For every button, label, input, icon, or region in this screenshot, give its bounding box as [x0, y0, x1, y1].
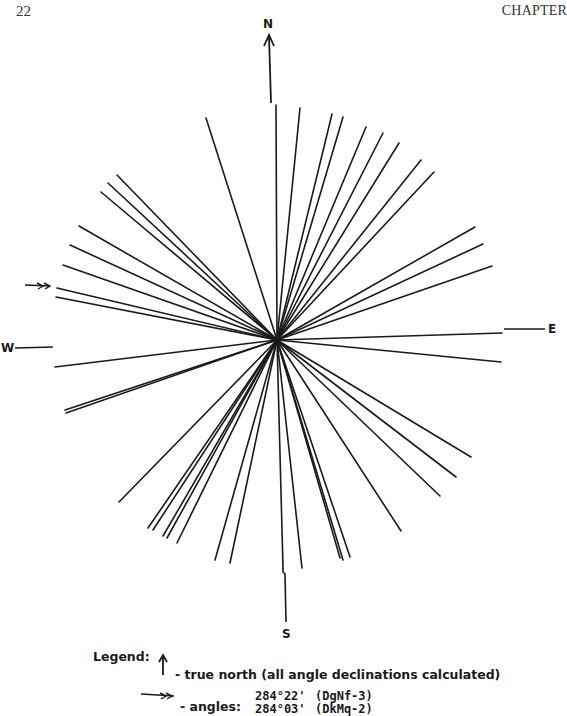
legend-title: Legend: — [93, 649, 150, 664]
legend-angle-pointer-icon — [141, 693, 174, 699]
angle-ray — [277, 340, 501, 362]
angle-ray — [177, 340, 277, 543]
west-label: W — [1, 341, 14, 355]
legend-north-arrow-icon — [159, 655, 167, 675]
legend-angle-2-site: (DkMq-2) — [315, 702, 373, 716]
angle-ray — [277, 340, 440, 496]
angle-ray — [57, 288, 277, 340]
angle-ray — [101, 192, 277, 340]
angle-ray — [79, 226, 277, 340]
south-marker — [283, 568, 286, 622]
angle-ray — [119, 340, 277, 502]
angle-ray — [63, 265, 277, 340]
angle-ray — [117, 175, 277, 340]
legend-angle-1-value: 284°22' — [255, 689, 306, 703]
orientation-rose-diagram — [0, 0, 567, 716]
angle-ray — [277, 340, 456, 477]
west-marker — [15, 347, 53, 348]
angle-ray — [277, 333, 502, 340]
east-label: E — [548, 322, 556, 336]
south-label: S — [282, 627, 291, 641]
angle-ray — [70, 245, 277, 340]
angle-ray — [277, 172, 434, 340]
angle-pointer-icon — [25, 283, 50, 289]
angle-ray — [277, 117, 343, 340]
legend-angle-2-value: 284°03' — [255, 702, 306, 716]
angle-ray — [277, 340, 350, 557]
angle-ray — [277, 143, 399, 340]
legend-angle-1-site: (DgNf-3) — [315, 689, 373, 703]
angle-ray — [56, 297, 277, 340]
angle-ray — [277, 244, 483, 340]
angle-ray — [276, 105, 277, 340]
angle-ray — [277, 108, 300, 340]
angle-rays — [55, 105, 502, 568]
angle-ray — [163, 340, 277, 536]
legend-north-description: - true north (all angle declinations cal… — [175, 667, 500, 682]
angle-ray — [215, 340, 277, 560]
north-arrow-icon — [264, 35, 274, 103]
angle-ray — [55, 340, 277, 367]
angle-ray — [65, 340, 277, 410]
north-label: N — [263, 17, 273, 31]
legend-angles-label: - angles: — [180, 699, 241, 714]
